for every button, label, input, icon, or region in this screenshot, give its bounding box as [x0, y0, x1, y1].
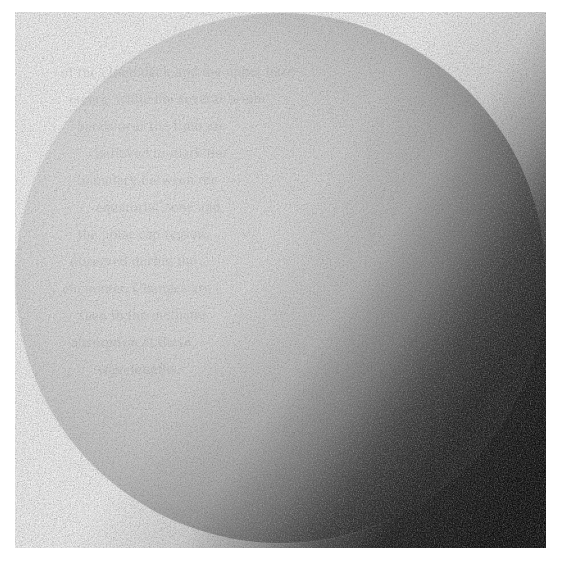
planet-disc-svg — [15, 12, 546, 548]
disc-terminator-dither — [15, 12, 546, 548]
scanned-image-page: of the cloud deck and the upper haze lay… — [0, 0, 561, 564]
planet-disc — [15, 12, 546, 548]
